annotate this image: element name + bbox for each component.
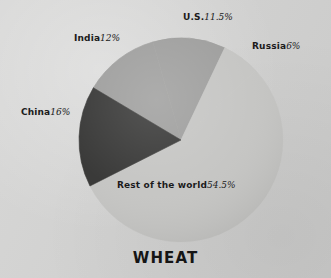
slice-label-rest-of-the-world: Rest of the world54.5%: [117, 180, 236, 190]
slice-label-china-value: 16%: [50, 107, 70, 117]
slice-label-china-name: China: [21, 107, 50, 117]
slice-label-russia-name: Russia: [252, 41, 286, 51]
pie-shading-overlay: [79, 38, 283, 242]
slice-label-india-name: India: [74, 33, 100, 43]
slice-label-rest-name: Rest of the world: [117, 180, 207, 190]
slice-label-us-name: U.S.: [183, 12, 204, 22]
wheat-production-pie-chart: U.S.11.5% Russia6% India12% China16% Res…: [0, 0, 331, 278]
slice-label-russia: Russia6%: [252, 41, 300, 51]
slice-label-china: China16%: [21, 107, 70, 117]
chart-title: WHEAT: [0, 249, 331, 267]
slice-label-india-value: 12%: [100, 33, 120, 43]
slice-label-russia-value: 6%: [286, 41, 300, 51]
slice-label-rest-value: 54.5%: [207, 180, 236, 190]
slice-label-us-value: 11.5%: [204, 12, 233, 22]
slice-label-us: U.S.11.5%: [183, 12, 233, 22]
pie-chart-page: U.S.11.5% Russia6% India12% China16% Res…: [0, 0, 331, 278]
slice-label-india: India12%: [74, 33, 120, 43]
